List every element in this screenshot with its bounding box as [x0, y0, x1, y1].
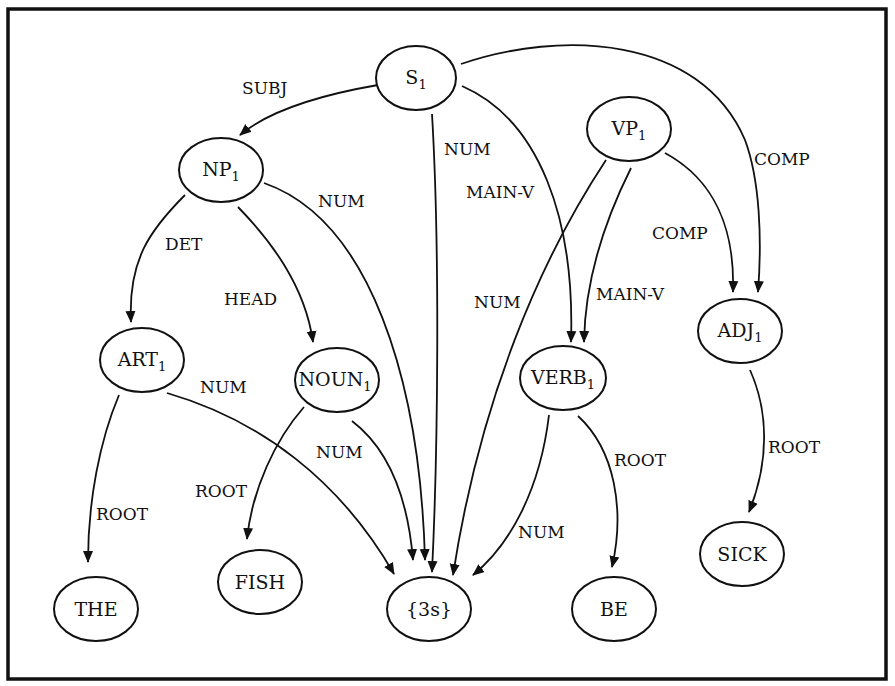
node-s1: S1	[376, 46, 456, 110]
node-vp1: VP1	[587, 97, 671, 161]
edge-verb1-be: ROOT	[578, 416, 667, 567]
node-be: BE	[572, 577, 656, 641]
svg-text:{3s}: {3s}	[406, 598, 452, 620]
edge-s1-np1: SUBJ	[240, 78, 378, 135]
edge-label: NUM	[518, 522, 565, 542]
svg-text:BE: BE	[600, 598, 628, 620]
edge-art1-the: ROOT	[88, 395, 149, 562]
node-adj1: ADJ1	[698, 299, 782, 363]
edge-label: ROOT	[195, 481, 248, 501]
edge-label: ROOT	[614, 450, 667, 470]
node-the: THE	[54, 577, 138, 641]
edge-label: NUM	[318, 191, 365, 211]
node-sick: SICK	[700, 522, 784, 586]
edge-label: COMP	[652, 223, 708, 243]
edge-adj1-sick: ROOT	[749, 370, 821, 512]
edge-vp1-adj1: COMP	[652, 153, 733, 292]
edge-verb1-3s: NUM	[473, 415, 565, 575]
edge-label: NUM	[444, 139, 491, 159]
edge-label: ROOT	[768, 437, 821, 457]
edge-s1-adj1: COMP	[461, 45, 810, 292]
node-art1: ART1	[100, 328, 184, 392]
edge-label: MAIN-V	[596, 284, 665, 304]
node-verb1: VERB1	[520, 346, 606, 410]
nodes: S1 NP1 VP1 ART1 NOUN1 VERB1 ADJ1 THE	[54, 46, 784, 641]
svg-text:SICK: SICK	[717, 543, 767, 565]
edge-vp1-verb1: MAIN-V	[584, 168, 665, 342]
edge-label: NUM	[200, 377, 247, 397]
edge-label: NUM	[474, 292, 521, 312]
node-noun1: NOUN1	[295, 348, 379, 412]
edge-label: NUM	[316, 442, 363, 462]
svg-text:FISH: FISH	[235, 571, 285, 593]
edge-label: ROOT	[96, 504, 149, 524]
node-np1: NP1	[179, 138, 263, 202]
node-fish: FISH	[218, 550, 302, 614]
edge-np1-art1: DET	[131, 195, 203, 322]
edge-label: SUBJ	[242, 78, 287, 98]
svg-text:THE: THE	[74, 598, 117, 620]
edge-label: MAIN-V	[466, 182, 535, 202]
diagram-canvas: SUBJ NUM MAIN-V COMP DET HEAD NU	[0, 0, 895, 686]
node-3s: {3s}	[387, 577, 471, 641]
edge-label: COMP	[754, 149, 810, 169]
edge-label: HEAD	[224, 289, 277, 309]
edge-np1-noun1: HEAD	[224, 207, 313, 342]
edge-label: DET	[165, 234, 203, 254]
